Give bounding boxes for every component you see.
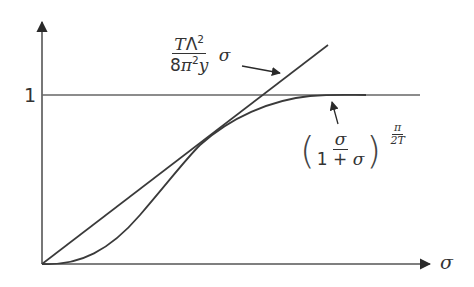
digit-one: 1 bbox=[317, 149, 328, 169]
x-axis-label: σ bbox=[440, 251, 453, 273]
symbol-y: y bbox=[199, 55, 209, 75]
fraction-numerator: σ bbox=[333, 130, 349, 150]
label-arrow-linear bbox=[242, 66, 280, 73]
exponent-fraction: π 2T bbox=[389, 122, 407, 148]
plus-sign: + bbox=[328, 149, 353, 169]
coefficient: 8 bbox=[170, 55, 181, 75]
saturating-formula-fraction: σ 1 + σ bbox=[315, 130, 367, 169]
symbol-sigma: σ bbox=[353, 149, 365, 169]
symbol-T: T bbox=[174, 34, 185, 54]
symbol-Lambda: Λ bbox=[186, 34, 198, 54]
symbol-pi: π bbox=[181, 55, 192, 75]
exponent: 2 bbox=[197, 33, 204, 45]
linear-formula-fraction: TΛ2 8π2y bbox=[168, 34, 210, 76]
saturating-formula-label: ( σ 1 + σ ) π 2T bbox=[300, 128, 407, 172]
linear-formula-numerator: TΛ2 bbox=[172, 34, 206, 54]
symbol-sigma: σ bbox=[219, 45, 231, 65]
y-tick-label-one: 1 bbox=[24, 84, 36, 106]
linear-formula-label: TΛ2 8π2y σ bbox=[168, 34, 230, 76]
linear-curve bbox=[42, 45, 328, 264]
saturating-curve bbox=[42, 95, 366, 264]
right-paren: ) bbox=[366, 128, 381, 172]
fraction-denominator: 1 + σ bbox=[315, 150, 367, 170]
exponent: 2 bbox=[192, 54, 199, 66]
exponent-denominator: 2T bbox=[389, 135, 407, 148]
label-arrow-saturating bbox=[332, 102, 338, 124]
linear-formula-denominator: 8π2y bbox=[168, 54, 210, 75]
left-paren: ( bbox=[300, 128, 315, 172]
